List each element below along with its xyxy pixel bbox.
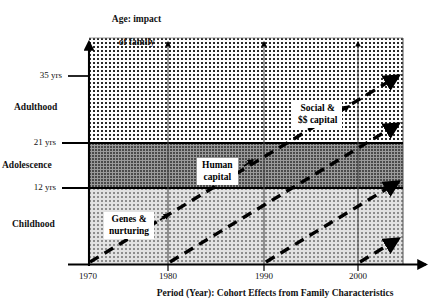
y-stage-label-adolescence: Adolescence <box>2 160 72 170</box>
x-tick-label-1970: 1970 <box>68 271 108 281</box>
x-tick-label-1990: 1990 <box>244 271 284 281</box>
y-axis-title-line1: Age: impact <box>112 14 161 24</box>
x-axis-title: Period (Year): Cohort Effects from Famil… <box>120 288 430 298</box>
y-axis-title: Age: impact of family <box>72 2 192 60</box>
y-axis-title-line2: of family <box>119 37 155 47</box>
chart-canvas: Age: impact of family Period (Year): Coh… <box>0 0 440 306</box>
y-tick-marks <box>62 76 89 188</box>
chart-vector-layer <box>0 0 440 306</box>
x-tick-label-2000: 2000 <box>338 271 378 281</box>
y-tick-label-21yrs: 21 yrs <box>4 137 56 147</box>
callout-human-capital: Human capital <box>197 158 238 185</box>
x-tick-label-1980: 1980 <box>148 271 188 281</box>
callout-social-capital-line2: $$ capital <box>298 115 337 125</box>
callout-social-capital-line1: Social & <box>300 103 335 113</box>
y-stage-label-adulthood: Adulthood <box>14 102 84 112</box>
callout-human-capital-line1: Human <box>202 160 233 170</box>
callout-social-capital: Social & $$ capital <box>293 101 342 128</box>
y-tick-label-35yrs: 35 yrs <box>10 70 62 80</box>
trajectory-arrow-2000 <box>360 239 398 262</box>
callout-genes-nurturing-line1: Genes & <box>112 214 147 224</box>
callout-human-capital-line2: capital <box>204 172 231 182</box>
y-tick-label-12yrs: 12 yrs <box>4 182 56 192</box>
y-stage-label-childhood: Childhood <box>12 219 82 229</box>
callout-genes-nurturing: Genes & nurturing <box>104 212 154 239</box>
callout-genes-nurturing-line2: nurturing <box>109 226 149 236</box>
